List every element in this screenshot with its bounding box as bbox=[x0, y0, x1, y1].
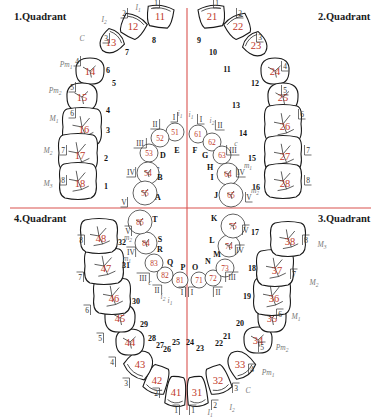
tooth-type-label: i1 bbox=[178, 109, 183, 119]
universal-number: 4 bbox=[106, 106, 110, 115]
fdi-number: 51 bbox=[171, 128, 179, 137]
zsigmondy-mark-label: 5 bbox=[260, 343, 264, 352]
zsigmondy-mark-label: 2 bbox=[238, 9, 242, 18]
universal-letter: J bbox=[214, 191, 218, 200]
tooth-type-label: Pm2 bbox=[275, 343, 289, 353]
fdi-number: 36 bbox=[269, 293, 280, 304]
universal-number: 24 bbox=[186, 338, 194, 347]
zsigmondy-mark-label: 3 bbox=[258, 33, 262, 42]
universal-number: 18 bbox=[248, 264, 256, 273]
primary-tooth-61[interactable]: 61FIi1 bbox=[189, 110, 207, 155]
zsigmondy-mark-label: 5 bbox=[98, 334, 102, 343]
universal-number: 9 bbox=[197, 36, 201, 45]
zsigmondy-mark-label: IV bbox=[236, 246, 244, 255]
zsigmondy-mark-label: 6 bbox=[300, 110, 304, 119]
tooth-type-label: c bbox=[234, 139, 238, 148]
fdi-number: 41 bbox=[171, 387, 182, 398]
tooth-type-label: I2 bbox=[228, 403, 235, 413]
tooth-type-label: i2 bbox=[210, 116, 215, 126]
tooth-type-label: I2 bbox=[100, 15, 107, 25]
fdi-number: 52 bbox=[156, 134, 164, 143]
fdi-number: 72 bbox=[209, 274, 217, 283]
tooth-21[interactable]: 2191 bbox=[197, 0, 226, 45]
universal-number: 21 bbox=[223, 332, 231, 341]
zsigmondy-mark: IV bbox=[235, 245, 244, 255]
zsigmondy-mark-label: 6 bbox=[85, 306, 89, 315]
universal-number: 6 bbox=[106, 66, 110, 75]
fdi-number: 42 bbox=[152, 375, 163, 386]
fdi-number: 61 bbox=[194, 130, 202, 139]
tooth-48[interactable]: 48328 bbox=[78, 219, 127, 254]
zsigmondy-mark: I bbox=[179, 287, 186, 297]
primary-tooth-55[interactable]: 55AV bbox=[121, 181, 162, 207]
fdi-number: 81 bbox=[176, 276, 184, 285]
primary-tooth-65[interactable]: 65JVm2 bbox=[214, 183, 259, 207]
universal-number: 29 bbox=[140, 320, 148, 329]
universal-letter: S bbox=[158, 235, 163, 244]
fdi-number: 18 bbox=[75, 178, 86, 189]
universal-number: 5 bbox=[112, 79, 116, 88]
quadrant-2-title: 2.Quadrant bbox=[318, 11, 371, 22]
zsigmondy-mark-label: II bbox=[153, 120, 158, 129]
fdi-number: 54 bbox=[144, 169, 152, 178]
fdi-number: 75 bbox=[229, 222, 237, 231]
universal-number: 20 bbox=[236, 319, 244, 328]
universal-number: 22 bbox=[215, 339, 223, 348]
fdi-number: 71 bbox=[195, 276, 203, 285]
fdi-number: 65 bbox=[227, 191, 235, 200]
fdi-number: 44 bbox=[125, 337, 136, 348]
zsigmondy-mark: II bbox=[215, 120, 224, 130]
zsigmondy-mark-label: 8 bbox=[61, 176, 65, 185]
zsigmondy-mark-label: III bbox=[228, 273, 236, 282]
zsigmondy-mark-label: V bbox=[243, 226, 249, 235]
fdi-number: 43 bbox=[135, 359, 146, 370]
fdi-number: 28 bbox=[280, 178, 291, 189]
universal-letter: E bbox=[174, 146, 179, 155]
fdi-number: 82 bbox=[161, 271, 169, 280]
primary-tooth-75[interactable]: 75KV bbox=[211, 214, 250, 239]
primary-tooth-64[interactable]: 64IIVm1 bbox=[210, 161, 252, 186]
universal-number: 13 bbox=[232, 101, 240, 110]
tooth-type-label: C bbox=[79, 34, 85, 43]
fdi-number: 48 bbox=[96, 233, 107, 244]
zsigmondy-mark: 6 bbox=[299, 109, 306, 119]
fdi-number: 27 bbox=[280, 151, 291, 162]
universal-letter: N bbox=[205, 257, 211, 266]
quadrant-1-title: 1.Quadrant bbox=[14, 11, 67, 22]
zsigmondy-mark: 5 bbox=[97, 333, 104, 343]
universal-letter: R bbox=[157, 245, 163, 254]
tooth-type-label: m2 bbox=[124, 233, 132, 243]
zsigmondy-mark: 3 bbox=[233, 383, 240, 393]
tooth-28[interactable]: 28168 bbox=[252, 164, 312, 199]
primary-tooth-51[interactable]: 51EIi1 bbox=[166, 109, 184, 155]
fdi-number: 16 bbox=[79, 124, 90, 135]
tooth-type-label: c bbox=[148, 278, 152, 287]
tooth-type-label: I1 bbox=[134, 3, 141, 13]
tooth-type-label: M3 bbox=[317, 240, 327, 250]
fdi-number: 55 bbox=[141, 189, 149, 198]
zsigmondy-mark-label: 2 bbox=[154, 389, 158, 398]
primary-tooth-71[interactable]: 71OI bbox=[189, 263, 208, 298]
zsigmondy-mark-label: 5 bbox=[70, 83, 74, 92]
fdi-number: 85 bbox=[136, 218, 144, 227]
universal-number: 19 bbox=[243, 292, 251, 301]
zsigmondy-mark-label: 7 bbox=[78, 273, 82, 282]
universal-letter: G bbox=[202, 151, 208, 160]
universal-number: 26 bbox=[163, 345, 171, 354]
fdi-number: 22 bbox=[233, 21, 244, 32]
zsigmondy-mark-label: 1 bbox=[215, 0, 219, 8]
tooth-type-label: i1 bbox=[189, 110, 194, 120]
fdi-number: 53 bbox=[145, 149, 153, 158]
universal-number: 3 bbox=[106, 126, 110, 135]
zsigmondy-mark: I bbox=[189, 287, 196, 297]
zsigmondy-mark-label: III bbox=[136, 139, 144, 148]
tooth-18[interactable]: 1818M3 bbox=[43, 163, 109, 200]
fdi-number: 63 bbox=[218, 151, 226, 160]
zsigmondy-mark: 3 bbox=[123, 378, 130, 388]
fdi-number: 26 bbox=[280, 121, 291, 132]
tooth-type-label: I1 bbox=[206, 408, 213, 417]
fdi-number: 31 bbox=[192, 387, 203, 398]
universal-number: 11 bbox=[223, 65, 231, 74]
zsigmondy-mark-label: 7 bbox=[61, 146, 65, 155]
fdi-number: 74 bbox=[225, 242, 233, 251]
